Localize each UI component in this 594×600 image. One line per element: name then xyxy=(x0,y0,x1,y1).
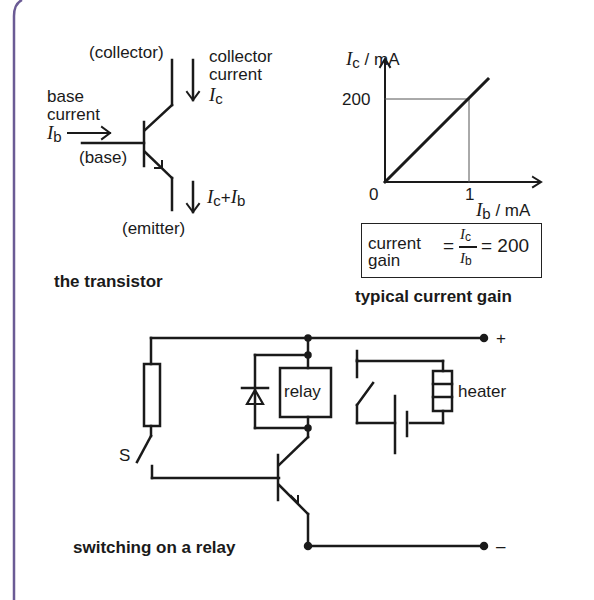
formula-word-gain: gain xyxy=(368,252,400,269)
y-tick-200: 200 xyxy=(342,91,370,108)
x-axis-label: Ib / mA xyxy=(476,201,530,219)
plus-terminal-label: + xyxy=(496,330,506,347)
formula-word-current: current xyxy=(368,235,421,252)
ib-label: Ib xyxy=(47,124,62,142)
gain-graph xyxy=(380,59,541,187)
switch-s-label: S xyxy=(119,447,130,464)
formula-numerator: Ic xyxy=(460,226,471,244)
base-current-arrow-icon xyxy=(68,127,110,139)
origin-label: 0 xyxy=(369,186,378,203)
heater-element xyxy=(433,371,452,411)
relay-caption: switching on a relay xyxy=(73,538,236,558)
base-label: (base) xyxy=(79,149,127,166)
base-current-label-2: current xyxy=(47,106,100,123)
emitter-current-arrow-icon xyxy=(187,182,199,212)
page-frame xyxy=(14,0,22,600)
collector-current-label-1: collector xyxy=(209,48,272,65)
relay-circuit xyxy=(137,335,487,549)
ic-label: Ic xyxy=(209,86,223,104)
minus-terminal-label: – xyxy=(496,538,505,555)
gain-caption: typical current gain xyxy=(355,287,512,307)
transistor-symbol xyxy=(82,60,172,210)
heater-label: heater xyxy=(458,383,506,400)
collector-label: (collector) xyxy=(89,44,164,61)
emitter-label: (emitter) xyxy=(122,220,185,237)
y-axis-label: Ic / mA xyxy=(346,50,400,68)
formula-denominator: Ib xyxy=(460,250,472,268)
resistor xyxy=(144,364,160,426)
transistor-caption: the transistor xyxy=(54,272,163,292)
relay-switch-contact xyxy=(357,383,373,405)
formula-fraction-bar xyxy=(459,246,477,248)
gain-line xyxy=(385,79,488,182)
x-tick-1: 1 xyxy=(465,186,474,203)
switch-s xyxy=(137,436,151,462)
base-current-label-1: base xyxy=(47,88,84,105)
emitter-current-label: Ic+Ib xyxy=(207,188,245,206)
formula-equals-1: = xyxy=(443,237,454,254)
collector-current-arrow-icon xyxy=(187,60,199,100)
relay-label: relay xyxy=(284,383,321,400)
formula-result: = 200 xyxy=(481,237,529,254)
collector-current-label-2: current xyxy=(209,66,262,83)
